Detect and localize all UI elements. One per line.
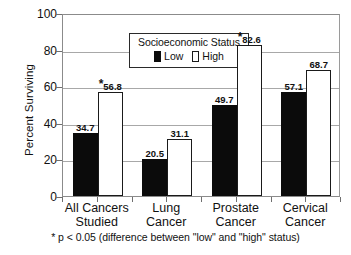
bar-value-label: 34.7 [76, 123, 95, 133]
filled-black-square-icon [154, 51, 161, 62]
y-tick-label: 60 [17, 82, 57, 92]
legend-entry-high: High [192, 51, 224, 62]
bar-value-label: 57.1 [285, 82, 304, 92]
x-category-label-3: CervicalCancer [255, 202, 351, 229]
legend-title: Socioeconomic Status [130, 36, 248, 49]
bar-value-label: 31.1 [171, 129, 190, 139]
bar-high-2: *82.6 [237, 45, 262, 196]
bar-low-2: 49.7 [212, 105, 237, 196]
footnote: * p < 0.05 (difference between "low" and… [0, 231, 351, 243]
legend-entry-label: Low [164, 51, 183, 62]
x-category-line2: Cancer [255, 216, 351, 230]
bar-value-label: 20.5 [146, 149, 165, 159]
legend-entry-label: High [202, 51, 224, 62]
bar-value-label: *56.8 [99, 79, 122, 92]
survival-bar-chart: Percent Surviving 020406080100 34.7*56.8… [0, 0, 351, 255]
bar-low-1: 20.5 [142, 159, 167, 197]
bar-high-0: *56.8 [98, 92, 123, 196]
legend-entries: LowHigh [130, 51, 248, 62]
y-tick-label: 0 [17, 192, 57, 202]
y-tick-label: 20 [17, 155, 57, 165]
plot-area: 34.7*56.820.531.149.7*82.657.168.7 Socio… [62, 14, 340, 197]
significance-star-icon: * [99, 77, 104, 91]
bar-low-3: 57.1 [281, 92, 306, 196]
x-category-line1: Cervical [255, 202, 351, 216]
bar-value-label: *82.6 [238, 32, 261, 45]
bar-value-label: 68.7 [310, 60, 329, 70]
bar-low-0: 34.7 [73, 133, 98, 197]
bar-high-1: 31.1 [167, 139, 192, 196]
legend: Socioeconomic Status LowHigh [129, 33, 249, 68]
y-tick-label: 100 [17, 9, 57, 19]
y-tick-label: 40 [17, 119, 57, 129]
y-tick-label: 80 [17, 46, 57, 56]
outlined-white-square-icon [192, 51, 199, 62]
bar-value-label: 49.7 [215, 95, 234, 105]
legend-entry-low: Low [154, 51, 183, 62]
significance-star-icon: * [238, 30, 243, 44]
bar-high-3: 68.7 [306, 70, 331, 196]
